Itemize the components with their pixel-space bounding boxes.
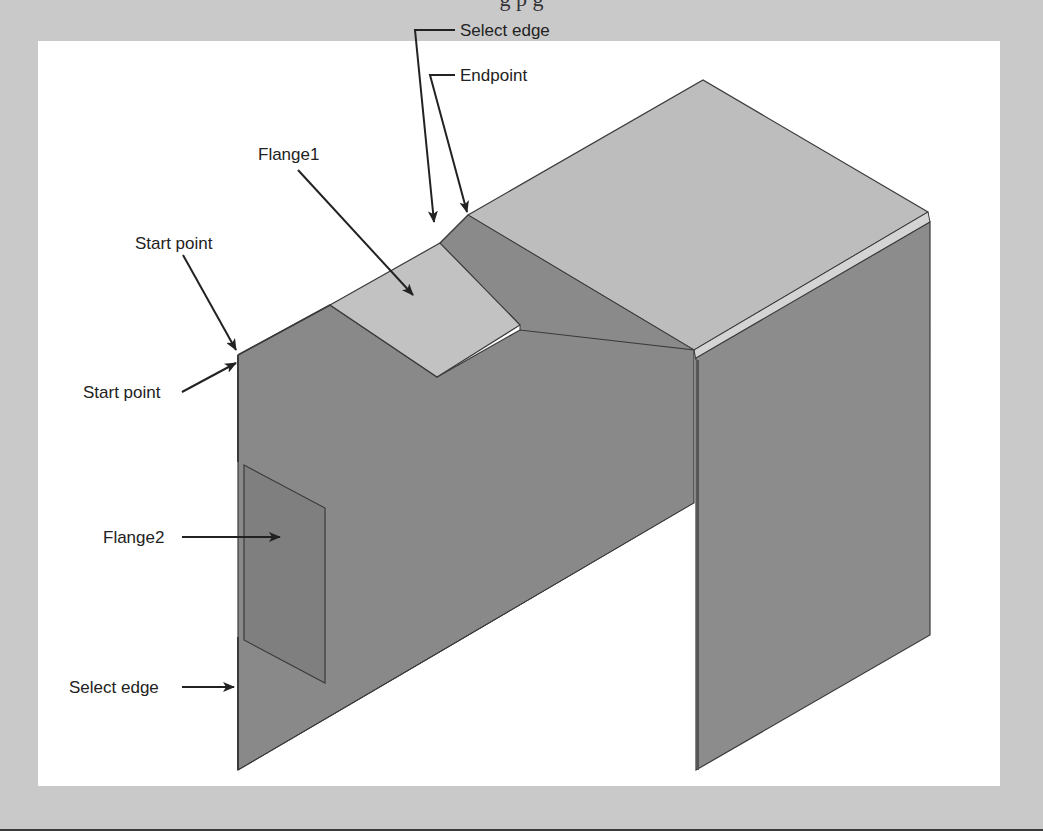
label-flange1: Flange1	[258, 145, 319, 164]
label-flange2: Flange2	[103, 528, 164, 547]
leader-endpoint	[430, 75, 467, 212]
leader-start-point-left	[182, 363, 236, 392]
leader-flange1	[298, 170, 413, 295]
label-start-point-left: Start point	[83, 383, 161, 402]
leader-select-edge-top	[415, 30, 455, 222]
label-start-point-top: Start point	[135, 234, 213, 253]
sheet-metal-drawing: Select edge Endpoint Flange1 Start point…	[0, 0, 1043, 839]
label-select-edge-bottom: Select edge	[69, 678, 159, 697]
label-endpoint: Endpoint	[460, 66, 527, 85]
leader-start-point-top	[183, 255, 236, 350]
label-select-edge-top: Select edge	[460, 21, 550, 40]
